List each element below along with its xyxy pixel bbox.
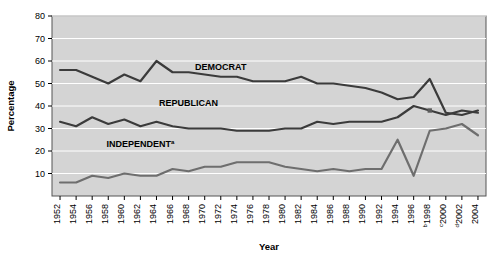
y-tick-label: 10: [35, 169, 45, 179]
x-tick-label: 1966: [165, 204, 175, 224]
x-axis-title: Year: [259, 241, 279, 252]
x-tick-label: 1968: [181, 204, 191, 224]
x-axis-ticks: [60, 196, 478, 200]
y-axis-title: Percentage: [5, 80, 16, 131]
x-tick-label: 1978: [261, 204, 271, 224]
x-tick-label: 1956: [84, 204, 94, 224]
y-tick-label: 80: [35, 11, 45, 21]
x-tick-label: 1972: [213, 204, 223, 224]
y-axis-tick-labels: 1020304050607080: [35, 11, 45, 179]
series-label-democrat: DEMOCRAT: [195, 62, 247, 72]
y-tick-label: 30: [35, 124, 45, 134]
x-tick-label: 1970: [197, 204, 207, 224]
x-tick-label: 1976: [245, 204, 255, 224]
y-tick-label: 70: [35, 34, 45, 44]
series-label-independent: INDEPENDENTa: [106, 139, 175, 149]
y-tick-label: 50: [35, 79, 45, 89]
data-markers: [428, 108, 432, 112]
x-tick-label: 1992: [374, 204, 384, 224]
x-tick-label: 1958: [100, 204, 110, 224]
x-tick-label: 1994: [390, 204, 400, 224]
x-tick-label: 1984: [309, 204, 319, 224]
x-tick-label: 1964: [148, 204, 158, 224]
x-tick-label: 1960: [116, 204, 126, 224]
y-tick-label: 20: [35, 146, 45, 156]
chart-container: 1020304050607080 19521954195619581960196…: [0, 0, 496, 256]
y-axis-ticks: [48, 16, 52, 174]
x-tick-label: 1982: [293, 204, 303, 224]
x-axis-tick-labels: 1952195419561958196019621964196619681970…: [52, 204, 480, 227]
x-tick-label: d2002: [454, 204, 464, 227]
x-tick-label: 1954: [68, 204, 78, 224]
x-tick-label: 1996: [406, 204, 416, 224]
data-point-marker: [428, 108, 432, 112]
x-tick-label: b1998: [422, 204, 432, 227]
series-label-republican: REPUBLICAN: [159, 98, 218, 108]
y-tick-label: 60: [35, 56, 45, 66]
party-identification-line-chart: 1020304050607080 19521954195619581960196…: [0, 0, 496, 256]
x-tick-label: 1990: [357, 204, 367, 224]
x-tick-label: 1988: [341, 204, 351, 224]
y-tick-label: 40: [35, 101, 45, 111]
x-tick-label: 2004: [470, 204, 480, 224]
x-tick-label: c2000: [438, 204, 448, 227]
x-tick-label: 1986: [325, 204, 335, 224]
x-tick-label: 1962: [132, 204, 142, 224]
x-tick-label: 1952: [52, 204, 62, 224]
x-tick-label: 1974: [229, 204, 239, 224]
x-tick-label: 1980: [277, 204, 287, 224]
